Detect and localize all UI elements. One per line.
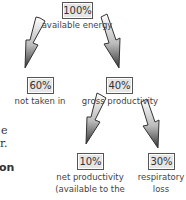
not-taken-in-box: 60% <box>27 77 54 94</box>
respiratory-loss-label-line2: loss <box>134 184 186 195</box>
respiratory-loss-value: 30% <box>150 156 172 167</box>
available-energy-value: 100% <box>63 5 92 16</box>
available-energy-label: available energy <box>40 20 114 31</box>
gross-productivity-label: gross productivity <box>80 96 160 107</box>
side-text-line3: on <box>0 161 14 174</box>
side-text-line1: e <box>1 124 8 137</box>
respiratory-loss-box: 30% <box>148 153 175 170</box>
side-text-line2: r. <box>0 137 8 150</box>
respiratory-loss-label-line1: respiratory <box>134 172 186 183</box>
net-productivity-label-line1: net productivity <box>52 172 128 183</box>
net-productivity-value: 10% <box>79 156 101 167</box>
not-taken-in-label: not taken in <box>8 96 72 107</box>
gross-productivity-box: 40% <box>106 77 133 94</box>
net-productivity-label-line2: (available to the <box>52 184 128 195</box>
not-taken-in-value: 60% <box>29 80 51 91</box>
gross-productivity-value: 40% <box>108 80 130 91</box>
available-energy-box: 100% <box>62 2 93 19</box>
net-productivity-box: 10% <box>77 153 104 170</box>
